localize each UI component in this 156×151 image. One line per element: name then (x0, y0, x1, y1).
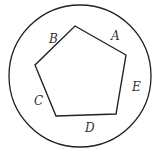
label-b: B (48, 32, 58, 46)
label-a: A (110, 29, 120, 43)
diagram: A B C D E (0, 0, 156, 151)
label-e: E (131, 80, 141, 94)
label-c: C (34, 94, 43, 108)
outer-circle (9, 5, 151, 147)
label-d: D (84, 121, 95, 135)
